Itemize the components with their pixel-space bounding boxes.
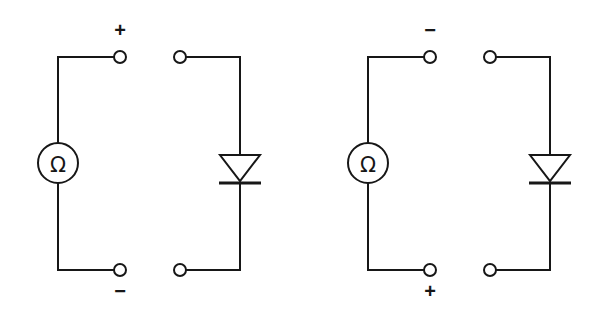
right-diode-terminal-bottom[interactable] [484, 264, 496, 276]
left-diode-terminal-bottom[interactable] [174, 264, 186, 276]
right-diode-bottom-wire [496, 183, 550, 270]
right-meter-bottom-wire [368, 183, 423, 270]
left-diode-terminal-top[interactable] [174, 51, 186, 63]
diode-triangle-icon [220, 155, 260, 181]
left-diode-symbol [219, 155, 261, 183]
ohmmeter-omega-glyph: Ω [360, 153, 376, 177]
left-meter-bottom-wire [58, 183, 113, 270]
left-diode-top-wire [186, 57, 240, 155]
right-top-polarity-label: − [418, 20, 442, 40]
diode-triangle-icon [530, 155, 570, 181]
right-circuit-group: Ω [348, 51, 571, 276]
left-circuit-group: Ω [38, 51, 261, 276]
left-ohmmeter-symbol: Ω [38, 143, 78, 183]
right-meter-terminal-top[interactable] [424, 51, 436, 63]
left-bottom-polarity-label: − [108, 281, 132, 301]
left-meter-terminal-top[interactable] [114, 51, 126, 63]
left-diode-bottom-wire [186, 183, 240, 270]
right-meter-top-wire [368, 57, 423, 143]
right-bottom-polarity-label: + [418, 281, 442, 301]
left-top-polarity-label: + [108, 20, 132, 40]
left-meter-terminal-bottom[interactable] [114, 264, 126, 276]
right-ohmmeter-symbol: Ω [348, 143, 388, 183]
left-meter-top-wire [58, 57, 113, 143]
ohmmeter-omega-glyph: Ω [50, 153, 66, 177]
right-diode-top-wire [496, 57, 550, 155]
circuit-schematic-svg: Ω [0, 0, 600, 320]
right-diode-terminal-top[interactable] [484, 51, 496, 63]
circuit-diagram-canvas: Ω [0, 0, 600, 320]
right-meter-terminal-bottom[interactable] [424, 264, 436, 276]
right-diode-symbol [529, 155, 571, 183]
